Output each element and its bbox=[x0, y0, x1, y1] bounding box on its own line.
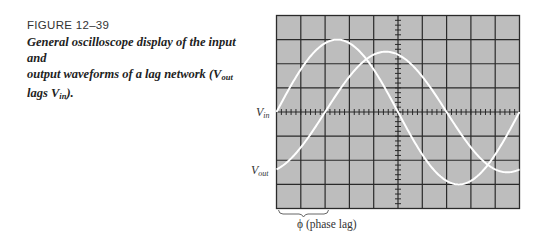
oscilloscope-display: Vin Vout ϕ (phase lag) bbox=[0, 0, 560, 244]
vout-label: Vout bbox=[251, 163, 269, 178]
phase-lag-label: ϕ (phase lag) bbox=[297, 218, 357, 231]
phase-lag-brace bbox=[279, 210, 329, 217]
vin-label: Vin bbox=[256, 105, 270, 120]
